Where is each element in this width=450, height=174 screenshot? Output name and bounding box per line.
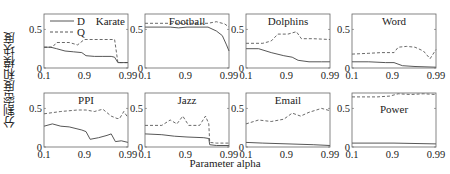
y-tick-label: 0.5	[231, 24, 244, 35]
subplot-football: 00.50.10.90.99Football	[130, 14, 238, 81]
y-tick-label: 0.5	[337, 103, 350, 114]
series-q-line	[145, 116, 229, 143]
subplot-title: Karate	[96, 15, 125, 27]
y-tick-label: 0.5	[337, 24, 350, 35]
y-tick-label: 0.5	[29, 24, 42, 35]
subplot-karate: 00.50.10.90.99KarateDQ	[29, 14, 137, 81]
x-tick-label: 0.9	[386, 70, 399, 81]
series-d-line	[44, 124, 128, 142]
subplot-title: Power	[380, 103, 408, 115]
subplot-title: Football	[169, 15, 206, 27]
series-d-line	[352, 62, 436, 67]
series-d-line	[352, 143, 436, 144]
legend-label: Q	[77, 26, 85, 38]
series-d-line	[44, 47, 128, 62]
y-tick-label: 0.5	[29, 103, 42, 114]
x-tick-label: 0.9	[280, 70, 293, 81]
x-tick-label: 0.1	[138, 70, 151, 81]
x-tick-label: 0.99	[220, 70, 238, 81]
series-q-line	[44, 109, 128, 118]
x-tick-label: 0.9	[179, 70, 192, 81]
x-tick-label: 0.9	[78, 70, 91, 81]
y-tick-label: 0.5	[130, 24, 143, 35]
axes-box	[352, 93, 436, 147]
subplot-title: Dolphins	[268, 15, 308, 27]
subplot-jazz: 00.50.10.90.99Jazz	[130, 93, 238, 160]
subplot-email: 00.50.10.90.99Email	[231, 93, 339, 160]
subplot-title: Word	[382, 15, 407, 27]
x-tick-label: 0.1	[345, 70, 358, 81]
series-q-line	[352, 94, 436, 97]
y-axis-label: 分割密度和模块度	[2, 14, 18, 146]
x-axis-label: Parameter alpha	[0, 157, 450, 169]
y-tick-label: 0.5	[231, 103, 244, 114]
subplot-dolphins: 00.50.10.90.99Dolphins	[231, 14, 339, 81]
series-d-line	[145, 134, 229, 146]
series-q-line	[352, 46, 436, 58]
x-tick-label: 0.1	[37, 70, 50, 81]
x-tick-label: 0.99	[427, 70, 445, 81]
subplot-power: 00.50.10.90.99Power	[337, 93, 445, 160]
subplot-word: 00.50.10.90.99Word	[337, 14, 445, 81]
y-tick-label: 0.5	[130, 103, 143, 114]
subplot-title: PPI	[78, 94, 94, 106]
legend: DQ	[50, 15, 85, 38]
subplot-title: Email	[275, 94, 301, 106]
chart-grid: 00.50.10.90.99KarateDQ00.50.10.90.99Foot…	[0, 0, 450, 174]
series-d-line	[246, 142, 330, 145]
series-d-line	[246, 49, 330, 62]
x-tick-label: 0.99	[321, 70, 339, 81]
series-q-line	[246, 32, 330, 44]
x-tick-label: 0.99	[119, 70, 137, 81]
series-q-line	[246, 108, 330, 124]
series-d-line	[145, 27, 229, 51]
subplot-title: Jazz	[178, 94, 197, 106]
x-tick-label: 0.1	[239, 70, 252, 81]
subplot-ppi: 00.50.10.90.99PPI	[29, 93, 137, 160]
